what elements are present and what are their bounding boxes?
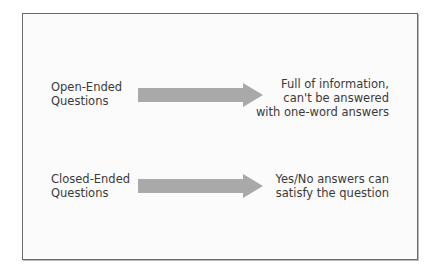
- open-ended-description: Full of information, can't be answered w…: [256, 77, 389, 119]
- label-line: Questions: [51, 186, 130, 200]
- label-line: Open-Ended: [51, 80, 122, 94]
- desc-line: with one-word answers: [256, 105, 389, 119]
- arrow-right-icon: [138, 83, 263, 107]
- open-ended-label: Open-Ended Questions: [51, 80, 122, 108]
- closed-ended-description: Yes/No answers can satisfy the question: [275, 172, 389, 200]
- desc-line: can't be answered: [256, 91, 389, 105]
- desc-line: Full of information,: [256, 77, 389, 91]
- closed-ended-label: Closed-Ended Questions: [51, 172, 130, 200]
- label-line: Questions: [51, 94, 122, 108]
- diagram-frame: [22, 13, 418, 260]
- label-line: Closed-Ended: [51, 172, 130, 186]
- arrow-right-icon: [138, 174, 263, 198]
- desc-line: satisfy the question: [275, 186, 389, 200]
- desc-line: Yes/No answers can: [275, 172, 389, 186]
